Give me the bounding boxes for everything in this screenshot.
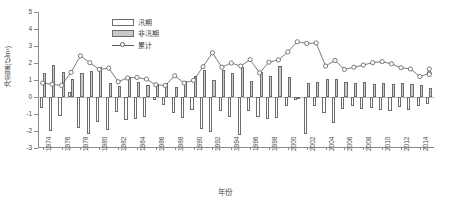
cumulative-marker: [361, 63, 365, 67]
cumulative-marker: [116, 80, 120, 84]
cumulative-marker: [333, 58, 337, 62]
cumulative-marker: [314, 41, 318, 45]
y-axis-title: 冲淤量(亿m³): [4, 46, 14, 87]
y-tick-label: 3: [16, 43, 32, 50]
cumulative-marker: [257, 71, 261, 75]
cumulative-marker: [135, 75, 139, 79]
cumulative-marker: [144, 77, 148, 81]
cumulative-marker: [69, 70, 73, 74]
legend-swatch-nonflood-icon: [112, 30, 134, 37]
legend-item-cumulative: 累计: [112, 40, 159, 50]
cumulative-marker: [371, 61, 375, 65]
cumulative-marker: [210, 51, 214, 55]
y-tick-label: 5: [16, 9, 32, 16]
cumulative-marker: [50, 82, 54, 86]
legend-label-cumulative: 累计: [138, 42, 152, 49]
legend-label-nonflood: 非汛期: [138, 30, 159, 37]
cumulative-marker: [389, 62, 393, 66]
cumulative-marker: [276, 58, 280, 62]
y-tick-label: 0: [16, 94, 32, 101]
cumulative-marker: [97, 67, 101, 71]
legend-label-flood: 汛期: [138, 19, 152, 26]
cumulative-line-series: [38, 12, 434, 148]
cumulative-marker: [107, 66, 111, 70]
y-tick-label: 1: [16, 77, 32, 84]
legend-swatch-flood-icon: [112, 19, 134, 26]
cumulative-marker: [305, 41, 309, 45]
y-tick-label: -1: [16, 111, 32, 118]
cumulative-marker: [295, 40, 299, 44]
cumulative-marker: [173, 74, 177, 78]
chart-legend: 汛期 非汛期 累计: [112, 17, 159, 52]
cumulative-marker: [163, 83, 167, 87]
legend-item-nonflood: 非汛期: [112, 29, 159, 39]
cumulative-marker: [286, 50, 290, 54]
cumulative-marker: [78, 54, 82, 58]
legend-item-flood: 汛期: [112, 17, 159, 27]
y-tick-label: -3: [16, 145, 32, 152]
cumulative-marker: [342, 67, 346, 71]
y-tick-label: 2: [16, 60, 32, 67]
cumulative-marker: [408, 67, 412, 71]
cumulative-marker: [239, 64, 243, 68]
cumulative-marker: [41, 81, 45, 85]
cumulative-marker: [154, 83, 158, 87]
cumulative-marker: [88, 61, 92, 65]
cumulative-marker: [267, 60, 271, 64]
y-tick: [34, 148, 38, 149]
cumulative-marker: [201, 65, 205, 69]
cumulative-marker: [220, 65, 224, 69]
legend-swatch-cumulative-icon: [112, 42, 134, 49]
cumulative-marker: [380, 60, 384, 64]
cumulative-marker: [427, 72, 431, 76]
cumulative-marker: [182, 81, 186, 85]
y-tick-label: 4: [16, 26, 32, 33]
y-tick-label: -2: [16, 128, 32, 135]
cumulative-marker: [248, 58, 252, 62]
cumulative-marker: [418, 75, 422, 79]
sediment-chart-figure: 冲淤量(亿m³) 543210-1-2-3 197419761978198019…: [0, 0, 449, 205]
cumulative-marker: [427, 67, 431, 71]
cumulative-marker: [191, 78, 195, 82]
plot-area: 543210-1-2-3 197419761978198019821984198…: [38, 12, 434, 148]
cumulative-marker: [352, 65, 356, 69]
cumulative-marker: [125, 76, 129, 80]
cumulative-marker: [229, 61, 233, 65]
cumulative-marker: [399, 66, 403, 70]
x-axis-title: 年份: [0, 186, 449, 197]
cumulative-marker: [323, 64, 327, 68]
cumulative-marker: [59, 83, 63, 87]
